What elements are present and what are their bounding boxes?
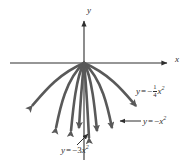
equation-exponent: 2 [86, 144, 89, 150]
equation-label-quarter-x-squared: y=−14x2 [136, 84, 164, 98]
parabola-figure: y x y=−14x2 y=−x2 y=−3x2 [0, 0, 187, 168]
leader-lines-group [77, 121, 141, 145]
y-axis-label: y [87, 6, 91, 15]
equation-exponent: 2 [161, 85, 164, 91]
x-axis-label: x [175, 55, 179, 64]
equation-label-neg-x-squared: y=−x2 [143, 117, 166, 126]
equation-exponent: 2 [163, 115, 166, 121]
equation-label-neg-3x-squared: y=−3x2 [61, 146, 89, 155]
